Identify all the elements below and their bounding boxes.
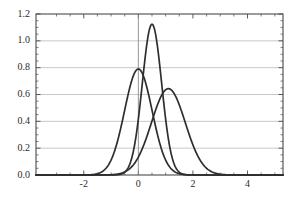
chart-container: 0.00.20.40.60.81.01.2 -2024 [0, 0, 298, 199]
y-tick-label: 0.2 [2, 142, 30, 153]
curve-broad-curve [36, 89, 283, 175]
x-tick-label: 0 [124, 178, 152, 189]
x-tick-label: 2 [179, 178, 207, 189]
x-tick-label: -2 [70, 178, 98, 189]
y-tick-label: 0.8 [2, 61, 30, 72]
plot-area [0, 0, 298, 199]
y-tick-label: 0.6 [2, 88, 30, 99]
data-curves-group [36, 24, 283, 175]
y-tick-label: 1.2 [2, 8, 30, 19]
y-tick-label: 1.0 [2, 34, 30, 45]
y-tick-label: 0.4 [2, 115, 30, 126]
y-tick-label: 0.0 [2, 169, 30, 180]
x-tick-label: 4 [234, 178, 262, 189]
curve-medium-curve [36, 69, 283, 175]
